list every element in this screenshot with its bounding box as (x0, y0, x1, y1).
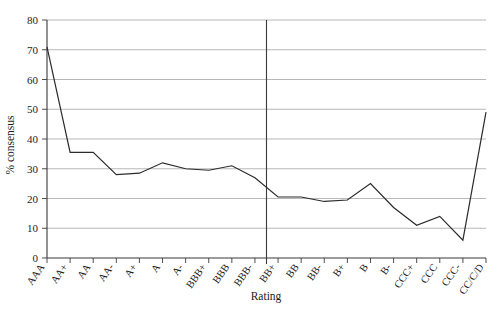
chart-container: 80 70 60 50 40 30 20 10 0 AAAAA+AAAA-A+A… (0, 0, 498, 316)
xtick-label-BB-: BB- (305, 261, 324, 282)
ytick-label-20: 20 (27, 193, 39, 205)
ytick-label-50: 50 (27, 103, 39, 115)
xtick-label-BB: BB (284, 262, 301, 280)
xtick-label-B+: B+ (331, 262, 347, 279)
xtick-label-AA: AA (75, 262, 93, 281)
xtick-label-CCC: CCC (418, 262, 439, 286)
ytick-label-40: 40 (27, 133, 39, 145)
xtick-label-AAA: AAA (25, 261, 47, 286)
xtick-label-CCC-: CCC- (439, 261, 462, 288)
xtick-label-CCC+: CCC+ (392, 262, 417, 290)
xtick-label-CC/C/D: CC/C/D (457, 262, 486, 297)
line-chart: 80 70 60 50 40 30 20 10 0 AAAAA+AAAA-A+A… (0, 0, 498, 316)
y-tick-labels: 80 70 60 50 40 30 20 10 0 (27, 14, 39, 264)
y-axis-ticks (42, 20, 47, 258)
xtick-label-A-: A- (170, 261, 186, 277)
xtick-label-BBB-: BBB- (232, 261, 255, 288)
ytick-label-80: 80 (27, 14, 39, 26)
xtick-label-BBB+: BBB+ (184, 262, 209, 290)
xtick-label-B: B (357, 262, 370, 274)
xtick-label-B-: B- (378, 261, 393, 276)
xtick-label-BB+: BB+ (257, 262, 277, 285)
ytick-label-30: 30 (27, 163, 39, 175)
ytick-label-70: 70 (27, 44, 39, 56)
xtick-label-A: A (149, 262, 163, 275)
x-axis-title: Rating (251, 290, 282, 303)
ytick-label-60: 60 (27, 74, 39, 86)
xtick-label-A+: A+ (122, 262, 139, 279)
ytick-label-10: 10 (27, 222, 39, 234)
xtick-label-BBB: BBB (210, 262, 231, 286)
y-axis-title: % consensus (4, 115, 16, 175)
xtick-label-AA-: AA- (96, 261, 116, 283)
xtick-label-AA+: AA+ (49, 262, 70, 286)
